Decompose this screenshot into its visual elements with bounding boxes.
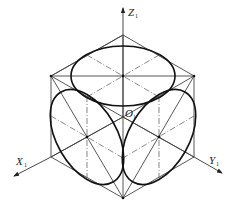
z-axis-subscript: 1 bbox=[135, 13, 138, 19]
origin-subscript: 1 bbox=[133, 114, 136, 120]
x-axis-label: X bbox=[15, 155, 24, 167]
isometric-cube-diagram: Z 1 X 1 Y 1 O 1 bbox=[0, 0, 235, 208]
axes bbox=[14, 8, 222, 176]
vertex-points bbox=[50, 75, 196, 200]
y-axis-subscript: 1 bbox=[216, 161, 219, 167]
cube-outline bbox=[51, 35, 194, 198]
origin-label: O bbox=[125, 107, 133, 119]
x-axis-subscript: 1 bbox=[24, 162, 27, 168]
z-axis-label: Z bbox=[128, 6, 135, 18]
